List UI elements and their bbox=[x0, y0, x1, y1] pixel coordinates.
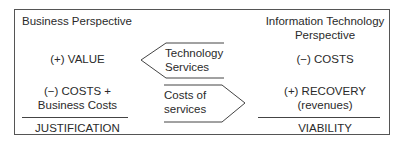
arrow-top-line1: Technology bbox=[165, 46, 223, 60]
right-recovery-line2: (revenues) bbox=[255, 98, 395, 112]
it-perspective-heading-line1: Information Technology bbox=[255, 14, 395, 28]
left-value: (+) VALUE bbox=[40, 52, 115, 66]
arrow-bottom-line2: services bbox=[164, 102, 206, 116]
arrow-bottom-line1: Costs of bbox=[164, 88, 206, 102]
right-recovery-line1: (+) RECOVERY bbox=[255, 84, 395, 98]
arrow-top-line2: Services bbox=[165, 60, 209, 74]
right-costs: (−) COSTS bbox=[255, 52, 395, 66]
it-perspective-heading-line2: Perspective bbox=[255, 28, 395, 42]
justification-label: JUSTIFICATION bbox=[20, 121, 135, 135]
left-divider bbox=[22, 117, 128, 118]
viability-label: VIABILITY bbox=[255, 121, 395, 135]
business-perspective-heading: Business Perspective bbox=[22, 14, 132, 28]
right-divider bbox=[258, 117, 380, 118]
left-costs-line2: Business Costs bbox=[20, 98, 135, 112]
left-costs-line1: (−) COSTS + bbox=[20, 84, 135, 98]
